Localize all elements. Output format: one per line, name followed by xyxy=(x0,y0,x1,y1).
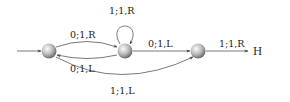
label-c-to-h: 1;1,R xyxy=(219,38,245,49)
label-b-to-a: 0;1,L xyxy=(70,63,95,74)
state-node-c xyxy=(191,44,206,59)
label-a-to-b: 0;1,R xyxy=(70,29,96,40)
edge-b-to-a xyxy=(57,55,117,59)
state-node-a xyxy=(42,44,57,59)
state-diagram: 0;1,R 0;1,L 1;1,R 0;1,L 1;1,R 1;1,L H xyxy=(0,0,290,102)
edge-b-loop xyxy=(117,26,133,44)
label-a-to-c: 1;1,L xyxy=(110,85,135,96)
halt-state-label: H xyxy=(253,45,262,57)
state-node-b xyxy=(118,44,133,59)
label-b-loop: 1;1,R xyxy=(109,5,135,16)
edge-a-to-b xyxy=(56,42,117,48)
label-b-to-c: 0;1,L xyxy=(148,38,173,49)
